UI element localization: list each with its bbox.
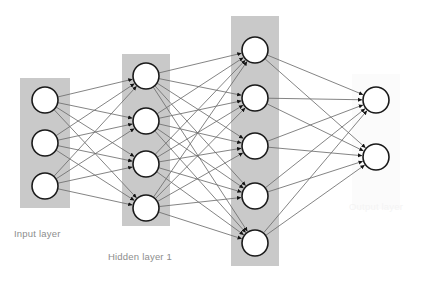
connection-hidden2-1-to-output-0 xyxy=(269,98,363,100)
connection-hidden2-2-to-output-0 xyxy=(268,105,363,141)
neuron-hidden1-4 xyxy=(133,195,159,221)
neuron-hidden2-4 xyxy=(242,183,268,209)
connection-hidden1-3-to-hidden2-4 xyxy=(159,212,242,239)
neuron-hidden2-2 xyxy=(242,85,268,111)
neuron-hidden1-1 xyxy=(133,63,159,89)
connection-hidden2-1-to-output-1 xyxy=(267,104,363,151)
connection-hidden1-3-to-hidden2-3 xyxy=(159,198,241,207)
neuron-hidden2-5 xyxy=(242,230,268,256)
connection-hidden2-0-to-output-0 xyxy=(267,55,363,94)
layer-label-input: Input layer xyxy=(14,228,61,239)
neuron-input-1 xyxy=(32,87,58,113)
connection-hidden2-0-to-output-1 xyxy=(265,59,365,148)
neuron-output-2 xyxy=(363,144,389,170)
layer-label-hidden-1: Hidden layer 1 xyxy=(108,251,172,262)
layer-label-output: Output layer xyxy=(349,201,403,212)
connection-hidden2-4-to-output-0 xyxy=(264,111,367,233)
neuron-hidden1-3 xyxy=(133,151,159,177)
neuron-input-3 xyxy=(32,173,58,199)
neuron-input-2 xyxy=(32,130,58,156)
neuron-hidden2-1 xyxy=(242,37,268,63)
neural-network-diagram: Input layer Hidden layer 1 Output layer xyxy=(0,0,423,283)
connections-group xyxy=(54,53,367,238)
neuron-output-1 xyxy=(363,87,389,113)
connection-hidden1-1-to-hidden2-2 xyxy=(159,124,241,143)
connection-hidden1-0-to-hidden2-0 xyxy=(159,53,241,73)
connection-hidden1-0-to-hidden2-2 xyxy=(157,83,243,138)
neuron-hidden2-3 xyxy=(242,133,268,159)
neuron-hidden1-2 xyxy=(133,108,159,134)
network-canvas xyxy=(0,0,423,283)
connection-hidden1-1-to-hidden2-3 xyxy=(157,129,243,188)
